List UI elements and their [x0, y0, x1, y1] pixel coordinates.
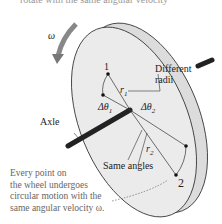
point-2-label: 2 — [178, 178, 184, 189]
point-1-label: 1 — [104, 61, 109, 72]
r1-label: r1 — [120, 84, 127, 100]
different-radii-label: Differentradii — [155, 63, 191, 85]
omega-label: ω — [48, 30, 55, 41]
r2-label: r2 — [146, 143, 153, 159]
dtheta1-label: Δθ1 — [98, 101, 112, 117]
caption: Every point on the wheel undergoes circu… — [10, 168, 104, 214]
dtheta2-label: Δθ2 — [141, 101, 155, 117]
axle-label: Axle — [40, 116, 59, 127]
wheel-diagram: rotate with the same angular velocity ω — [0, 0, 222, 224]
same-angles-label: Same angles — [103, 160, 153, 171]
